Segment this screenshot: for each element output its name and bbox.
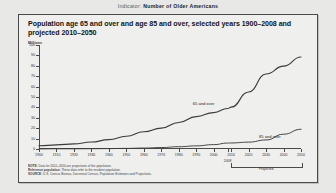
x-tick-label: 1920 xyxy=(70,153,78,157)
y-tick-label: 50 xyxy=(31,95,35,99)
screenshot-page: Indicator: Number of Older Americans Pop… xyxy=(0,0,336,193)
x-tick-mark xyxy=(266,149,267,152)
x-tick-mark xyxy=(196,149,197,152)
x-tick-label: 1930 xyxy=(87,153,95,157)
x-tick-mark xyxy=(179,149,180,152)
x-tick-mark xyxy=(39,149,40,152)
series-label-85-and-over: 85 and over xyxy=(259,134,281,139)
x-tick-mark xyxy=(231,149,232,152)
indicator-value: Number of Older Americans xyxy=(143,3,218,9)
x-tick-label: 1990 xyxy=(192,153,200,157)
x-tick-mark xyxy=(284,149,285,152)
x-tick-mark xyxy=(91,149,92,152)
y-tick-label: 30 xyxy=(31,116,35,120)
x-tick-label-2008: 2008 xyxy=(224,159,232,163)
x-tick-label: 1940 xyxy=(105,153,113,157)
x-tick-label: 1950 xyxy=(122,153,130,157)
plot-frame: 0102030405060708090100 19001910192019301… xyxy=(39,45,301,149)
series-line-65-and-over xyxy=(39,57,301,146)
y-tick-label: 40 xyxy=(31,105,35,109)
x-tick-mark xyxy=(301,149,302,152)
x-tick-label: 1980 xyxy=(175,153,183,157)
x-tick-label: 1960 xyxy=(140,153,148,157)
y-tick-label: 80 xyxy=(31,64,35,68)
y-tick-label: 10 xyxy=(31,137,35,141)
x-tick-label: 1910 xyxy=(53,153,61,157)
x-tick-mark xyxy=(228,149,229,152)
x-tick-mark xyxy=(74,149,75,152)
x-tick-label: 2010 xyxy=(227,153,235,157)
x-tick-label: 2030 xyxy=(262,153,270,157)
y-tick-label: 100 xyxy=(29,43,35,47)
footnote-source: SOURCE: U.S. Census Bureau, Decennial Ce… xyxy=(28,172,308,176)
x-tick-mark xyxy=(56,149,57,152)
footnote-source-key: SOURCE: xyxy=(28,172,42,176)
x-tick-mark xyxy=(109,149,110,152)
y-tick-label: 90 xyxy=(31,53,35,57)
plot-area: 0102030405060708090100 19001910192019301… xyxy=(39,45,301,149)
indicator-label: Indicator: xyxy=(118,3,142,9)
x-tick-label: 2020 xyxy=(245,153,253,157)
series-label-65-and-over: 65 and over xyxy=(193,101,215,106)
indicator-header: Indicator: Number of Older Americans xyxy=(0,3,336,9)
y-tick-label: 60 xyxy=(31,85,35,89)
chart-panel: Population age 65 and over and age 85 an… xyxy=(18,14,318,183)
x-tick-label: 2000 xyxy=(210,153,218,157)
x-tick-mark xyxy=(214,149,215,152)
y-tick-label: 0 xyxy=(33,147,35,151)
x-tick-mark xyxy=(126,149,127,152)
x-tick-label: 2050 xyxy=(297,153,305,157)
y-tick-label: 20 xyxy=(31,126,35,130)
x-tick-mark xyxy=(161,149,162,152)
x-tick-label: 2040 xyxy=(280,153,288,157)
footnote-source-text: U.S. Census Bureau, Decennial Census, Po… xyxy=(42,172,152,176)
series-curves xyxy=(39,45,301,149)
footnote-block: NOTE: Data for 2010–2050 are projections… xyxy=(28,164,308,176)
x-tick-label: 1900 xyxy=(35,153,43,157)
chart-title: Population age 65 and over and age 85 an… xyxy=(28,20,303,38)
y-tick-label: 70 xyxy=(31,74,35,78)
x-tick-mark xyxy=(249,149,250,152)
x-tick-label: 1970 xyxy=(157,153,165,157)
x-tick-mark xyxy=(144,149,145,152)
